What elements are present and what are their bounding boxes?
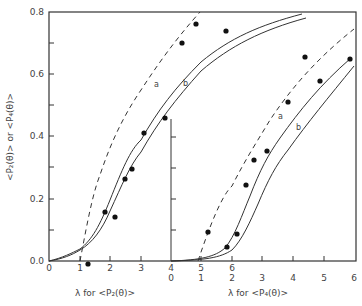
x-tick: 1 (198, 273, 204, 283)
x-tick: 6 (229, 263, 235, 273)
x-tick: 0 (46, 263, 52, 273)
x-axis-title-p4: λ for <P₄(θ)> (228, 288, 288, 298)
plot-frame (49, 12, 356, 261)
x-tick: 2 (107, 263, 113, 273)
y-tick-labels: 0.0 0.2 0.4 0.6 0.8 (30, 7, 45, 266)
x-tick: 5 (198, 263, 204, 273)
inner-y-ticks (171, 137, 176, 230)
p4-label-b: b (296, 123, 301, 132)
p2-label-b: b (183, 79, 188, 88)
p2-curve-b (49, 18, 306, 261)
x-tick: 4 (290, 273, 296, 283)
p2-label-a: a (154, 80, 159, 89)
p4-data-points (205, 54, 352, 249)
x-tick: 4 (168, 263, 174, 273)
x-tick: 3 (138, 263, 144, 273)
y-tick-0.6: 0.6 (30, 69, 45, 79)
y-tick-0.4: 0.4 (30, 131, 45, 141)
p4-curve-b (171, 66, 354, 261)
p4-label-a: a (278, 112, 283, 121)
y-axis-title: <P₂(θ)> or <P₄(θ)> (5, 93, 15, 181)
chart: 0.0 0.2 0.4 0.6 0.8 0 1 2 3 4 5 6 0 1 2 … (0, 0, 362, 306)
y-tick-0.2: 0.2 (30, 194, 44, 204)
x-tick-labels-p2: 0 1 2 3 4 5 6 (46, 263, 235, 273)
x-tick: 5 (321, 273, 327, 283)
x-tick: 6 (351, 273, 357, 283)
x-tick-labels-p4: 0 1 2 3 4 5 6 (168, 273, 357, 283)
p4-dashed-curve (198, 29, 354, 261)
y-ticks (49, 43, 54, 230)
x-tick: 3 (259, 273, 265, 283)
x-tick: 2 (229, 273, 235, 283)
y-tick-0: 0.0 (30, 256, 45, 266)
p2-dashed-curve (80, 12, 200, 261)
x-tick: 0 (168, 273, 174, 283)
y-tick-0.8: 0.8 (30, 7, 45, 17)
p4-curve-a (171, 58, 351, 261)
x-axis-title-p2: λ for <P₂(θ)> (75, 288, 135, 298)
x-tick: 1 (77, 263, 83, 273)
